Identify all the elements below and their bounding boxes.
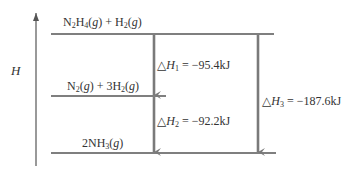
- delta-icon: △: [262, 94, 271, 108]
- delta-icon: △: [157, 114, 166, 128]
- dh1-label: △H1 = −95.4kJ: [157, 59, 230, 71]
- enthalpy-diagram: H N2H4(g) + H2(g) N2(g) + 3H2(g) 2NH3(g)…: [0, 0, 362, 172]
- level-label-middle: N2(g) + 3H2(g): [67, 80, 139, 92]
- dh3-label: △H3 = −187.6kJ: [262, 95, 341, 107]
- diagram-graphics: [0, 0, 362, 172]
- level-label-bottom: 2NH3(g): [82, 137, 123, 149]
- dh2-label: △H2 = −92.2kJ: [157, 115, 230, 127]
- axis-label-h: H: [11, 64, 20, 77]
- level-label-top: N2H4(g) + H2(g): [63, 16, 142, 28]
- delta-icon: △: [157, 58, 166, 72]
